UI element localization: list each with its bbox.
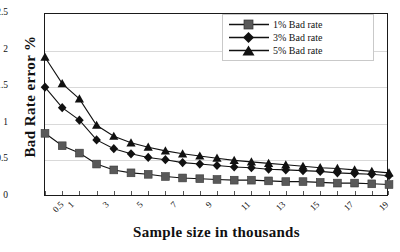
legend-marker-triangle [225,44,273,57]
data-point-triangle [126,138,135,146]
data-point-triangle [58,79,67,87]
legend-marker-square [225,18,273,31]
data-point-square [41,129,49,137]
series-triangle [40,53,393,177]
x-axis-tick-label: 5 [135,200,145,210]
data-point-square [351,179,359,187]
data-point-square [76,149,84,157]
legend-label: 3% Bad rate [273,32,322,43]
x-axis-tick-label: 17 [343,200,356,213]
legend-item: 5% Bad rate [225,44,369,57]
y-axis-tick-label: 0 [0,191,8,201]
x-axis-tick-label: 7 [170,200,180,210]
data-point-diamond [178,158,187,167]
x-axis-tick-label: 9 [204,200,214,210]
legend-label: 1% Bad rate [273,19,322,30]
data-point-square [93,160,101,168]
data-point-diamond [161,155,170,164]
x-axis-tick-label: 1 [67,200,77,210]
data-point-square [282,178,290,186]
data-point-square [179,174,187,182]
x-axis-tick-label: 19 [377,200,390,213]
y-axis-title: Bad Rate error % [22,7,39,187]
chart-legend: 1% Bad rate 3% Bad rate 5% Bad rate [222,14,374,61]
y-axis-tick-label: 1 [0,118,8,128]
y-axis-tick-label: 0.5 [0,154,8,164]
data-point-square [110,166,118,174]
data-point-square [230,176,238,184]
data-point-diamond [110,144,119,153]
data-point-square [144,170,152,178]
data-point-square [127,169,135,177]
x-axis-tick-label: 3 [101,200,111,210]
data-point-square [162,173,170,181]
data-point-square [213,176,221,184]
data-point-triangle [92,121,101,129]
x-axis-title: Sample size in thousands [44,224,389,241]
data-point-square [265,177,273,185]
data-point-diamond [213,161,222,170]
legend-item: 3% Bad rate [225,31,369,44]
y-axis-tick-label: 2.5 [0,8,8,18]
data-point-square [299,178,307,186]
data-point-square [58,142,66,150]
legend-marker-diamond [225,31,273,44]
data-point-diamond [127,149,136,158]
data-point-square [334,179,342,187]
data-point-diamond [196,159,205,168]
data-point-square [316,178,324,186]
data-point-square [385,181,393,189]
data-point-diamond [144,153,153,162]
x-axis-tick-label: 0.5 [51,200,65,214]
data-point-square [368,180,376,188]
data-point-triangle [40,53,49,61]
x-axis-tick-label: 15 [309,200,322,213]
y-axis-tick-label: 2 [0,45,8,55]
y-axis-tick-label: 1.5 [0,81,8,91]
legend-item: 1% Bad rate [225,18,369,31]
chart-figure: Bad Rate error % Sample size in thousand… [0,0,400,252]
data-point-square [248,176,256,184]
x-axis-tick-label: 11 [240,200,252,212]
legend-label: 5% Bad rate [273,45,322,56]
x-axis-tick-label: 13 [274,200,287,213]
data-point-triangle [109,132,118,140]
data-point-square [196,175,204,183]
